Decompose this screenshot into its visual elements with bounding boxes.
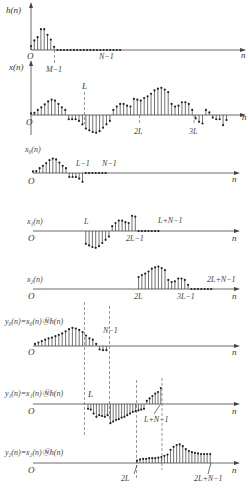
h-xlabel: n bbox=[241, 50, 246, 60]
y0-sample bbox=[61, 332, 63, 334]
h-sample bbox=[99, 49, 101, 51]
x2-sample bbox=[171, 281, 173, 283]
x1-sample bbox=[98, 245, 100, 247]
y2-sample bbox=[197, 452, 199, 454]
x0-sample bbox=[91, 172, 93, 174]
y1-sample bbox=[140, 409, 142, 411]
x0-sample bbox=[52, 158, 54, 160]
y1-ylabel: y₁(n)=x₁(n)Ⓝh(n) bbox=[4, 389, 63, 398]
y2-sample bbox=[145, 458, 147, 460]
y2-origin: O bbox=[28, 465, 35, 475]
x-sample bbox=[44, 103, 46, 105]
y0-sample bbox=[37, 341, 39, 343]
y0-sample bbox=[41, 340, 43, 342]
x-sample bbox=[54, 99, 56, 101]
y2-sample bbox=[194, 452, 196, 454]
x-sample bbox=[99, 130, 101, 132]
y1-leader bbox=[154, 405, 160, 414]
h-sample bbox=[96, 49, 98, 51]
y0-sample bbox=[65, 330, 67, 332]
x-sample bbox=[119, 103, 121, 105]
h-sample bbox=[116, 49, 118, 51]
x0-sample bbox=[105, 172, 107, 174]
x2-sample bbox=[157, 266, 159, 268]
y1-sample bbox=[129, 413, 131, 415]
x1-sample bbox=[95, 247, 97, 249]
x0-sample bbox=[101, 172, 103, 174]
y1-sample bbox=[98, 414, 100, 416]
y1-sample bbox=[149, 397, 151, 399]
h-sample bbox=[106, 49, 108, 51]
x0-sample bbox=[42, 165, 44, 167]
y2-sample bbox=[182, 445, 184, 447]
y1-sample bbox=[157, 391, 159, 393]
x2-sample bbox=[210, 288, 212, 290]
x2-sample bbox=[174, 280, 176, 282]
x0-sample bbox=[98, 172, 100, 174]
h-sample bbox=[70, 49, 72, 51]
y2-xlabel: n bbox=[232, 465, 237, 475]
x2-sample bbox=[147, 270, 149, 272]
x2-sample bbox=[187, 284, 189, 286]
h-sample bbox=[83, 49, 85, 51]
x-origin: O bbox=[26, 117, 33, 127]
x-sample bbox=[30, 112, 32, 114]
panel-h: h(n) O n M−1 N−1 bbox=[6, 2, 246, 74]
x0-sample bbox=[55, 158, 57, 160]
x2-sample bbox=[138, 276, 140, 278]
x-sample bbox=[95, 132, 97, 134]
x0-sample bbox=[58, 162, 60, 164]
y2-sample bbox=[179, 443, 181, 445]
x1-sample bbox=[91, 246, 93, 248]
x1-tick-2L-1: 2L−1 bbox=[126, 234, 144, 243]
x1-sample bbox=[138, 230, 140, 232]
y2-sample bbox=[151, 457, 153, 459]
x-sample bbox=[50, 99, 52, 101]
y0-sample bbox=[54, 335, 56, 337]
h-sample bbox=[40, 28, 42, 30]
y2-sample bbox=[176, 444, 178, 446]
h-ylabel: h(n) bbox=[6, 5, 21, 15]
y1-sample bbox=[154, 393, 156, 395]
x0-sample bbox=[75, 176, 77, 178]
x2-tick-3L-1: 3L−1 bbox=[176, 292, 195, 301]
x1-sample bbox=[118, 220, 120, 222]
x2-sample bbox=[194, 288, 196, 290]
x1-sample bbox=[114, 222, 116, 224]
y1-sample bbox=[93, 413, 95, 415]
x1-sample bbox=[147, 230, 149, 232]
x-sample bbox=[129, 105, 131, 107]
x-sample bbox=[153, 89, 155, 91]
x1-sample bbox=[88, 244, 90, 246]
y2-sample bbox=[157, 457, 159, 459]
x-sample bbox=[188, 103, 190, 105]
x2-ylabel: x₂(n) bbox=[26, 275, 43, 284]
x1-sample bbox=[157, 230, 159, 232]
y2-sample bbox=[206, 453, 208, 455]
x-sample bbox=[123, 103, 125, 105]
x-sample bbox=[177, 105, 179, 107]
panel-x: x(n) O n L 2L 3L bbox=[8, 60, 247, 136]
x-stems bbox=[30, 87, 228, 134]
x-sample bbox=[167, 91, 169, 93]
y2-sample bbox=[173, 446, 175, 448]
x-sample bbox=[191, 109, 193, 111]
y2-sample bbox=[209, 453, 211, 455]
y0-stems bbox=[34, 327, 108, 352]
x-sample bbox=[33, 112, 35, 114]
y2-stems bbox=[136, 443, 211, 463]
h-sample bbox=[56, 49, 58, 51]
x0-sample bbox=[45, 162, 47, 164]
y1-sample bbox=[143, 408, 145, 410]
x2-sample bbox=[167, 279, 169, 281]
x-sample bbox=[205, 109, 207, 111]
y0-sample bbox=[95, 343, 97, 345]
x-tick-L: L bbox=[81, 81, 87, 91]
y0-sample bbox=[78, 329, 80, 331]
x1-sample bbox=[121, 220, 123, 222]
x-tick-2L: 2L bbox=[134, 127, 143, 136]
y2-sample bbox=[166, 454, 168, 456]
panel-x1: x₁(n) O n L 2L−1 L+N−1 bbox=[26, 215, 240, 249]
x2-sample bbox=[204, 288, 206, 290]
x1-tick-L: L bbox=[83, 217, 89, 226]
